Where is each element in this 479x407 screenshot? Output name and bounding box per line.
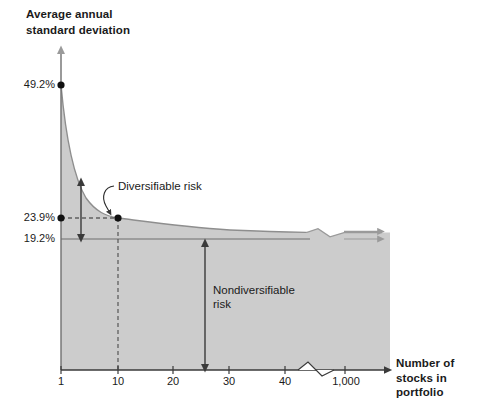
page-title-line2: standard deviation [26, 24, 130, 36]
chart-canvas [0, 0, 479, 407]
x-tick-label-1000: 1,000 [323, 375, 369, 387]
nondiversifiable-risk-label: Nondiversifiable risk [213, 283, 295, 311]
nondiversifiable-risk-label-line2: risk [213, 297, 295, 311]
portfolio-risk-curve [61, 85, 306, 232]
diversifiable-risk-label: Diversifiable risk [118, 180, 202, 192]
y-tick-label-19: 19.2% [0, 232, 55, 244]
marker-one-stock [57, 81, 64, 88]
x-tick-label-40: 40 [265, 375, 305, 387]
risk-diversification-chart: Average annual standard deviation 49.2% … [0, 0, 479, 407]
x-axis-title-line1: Number of [396, 356, 454, 371]
x-axis-title-line3: portfolio [396, 385, 454, 400]
x-axis-title: Number of stocks in portfolio [396, 356, 454, 400]
marker-ten-stocks [114, 214, 121, 221]
x-tick-label-30: 30 [209, 375, 249, 387]
x-tick-label-10: 10 [98, 375, 138, 387]
nondiversifiable-risk-label-line1: Nondiversifiable [213, 283, 295, 297]
y-tick-label-49: 49.2% [0, 78, 55, 90]
page-title-line1: Average annual [26, 8, 113, 20]
diversifiable-leader-line [104, 186, 114, 213]
marker-y-23-9 [57, 214, 64, 221]
risk-area-fill [61, 85, 390, 370]
x-tick-label-1: 1 [41, 375, 81, 387]
x-axis-title-line2: stocks in [396, 371, 454, 386]
x-tick-label-20: 20 [153, 375, 193, 387]
y-tick-label-23: 23.9% [0, 211, 55, 223]
